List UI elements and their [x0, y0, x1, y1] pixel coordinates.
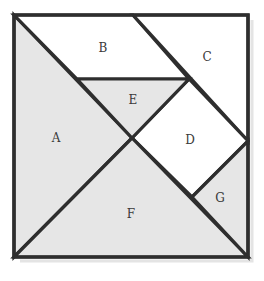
label-f: F — [127, 207, 135, 221]
label-c: C — [202, 50, 211, 64]
label-e: E — [129, 93, 138, 107]
label-d: D — [185, 133, 195, 147]
label-b: B — [99, 41, 108, 55]
tangram-pieces — [14, 15, 248, 257]
label-a: A — [51, 131, 61, 145]
tangram-diagram: ABCDEFG — [0, 0, 264, 281]
label-g: G — [215, 191, 225, 205]
